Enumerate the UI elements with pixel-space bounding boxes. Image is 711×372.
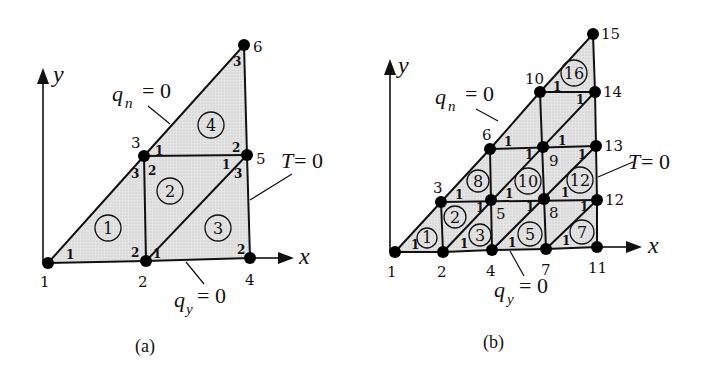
- bc-rhs: = 0: [519, 273, 548, 298]
- node-label: 10: [525, 70, 544, 88]
- local-number: 1: [460, 237, 468, 251]
- node-label: 9: [549, 152, 559, 170]
- bc-symbol: q: [494, 277, 505, 302]
- node-label: 11: [588, 259, 607, 277]
- local-number: 1: [504, 135, 512, 149]
- node-label: 6: [253, 38, 263, 56]
- bc-qn-b: q n = 0: [435, 81, 498, 121]
- node-label: 1: [387, 263, 397, 281]
- bc-subscript: y: [184, 301, 193, 317]
- element-label: 1: [422, 228, 432, 247]
- bc-subscript: n: [125, 95, 133, 111]
- local-number: 1: [561, 186, 569, 200]
- node-label: 3: [433, 179, 443, 197]
- bc-symbol: q: [112, 81, 123, 106]
- local-number: 3: [131, 167, 139, 181]
- node-label: 2: [138, 273, 148, 291]
- local-number: 1: [558, 134, 566, 148]
- node-label: 1: [40, 273, 50, 291]
- node-label: 15: [601, 25, 620, 43]
- bc-rhs: = 0: [142, 78, 171, 103]
- x-axis-label-a: x: [298, 243, 310, 269]
- element-label: 3: [213, 219, 223, 238]
- x-axis-label-b: x: [647, 232, 659, 258]
- caption-b: (b): [483, 332, 504, 353]
- element-label: 8: [473, 172, 483, 191]
- local-number: 1: [526, 200, 534, 214]
- local-number: 1: [580, 200, 588, 214]
- local-number: 2: [148, 164, 156, 178]
- local-number: 1: [505, 187, 513, 201]
- local-number: 3: [233, 55, 241, 69]
- y-axis-label-b: y: [396, 52, 409, 78]
- y-axis-b: y: [384, 52, 409, 252]
- element-label: 1: [103, 219, 113, 238]
- node-label: 6: [482, 126, 492, 144]
- local-number: 1: [562, 234, 570, 248]
- node-label: 13: [604, 137, 623, 155]
- bc-rhs: = 0: [197, 283, 226, 308]
- local-number: 1: [476, 201, 484, 215]
- node-label: 4: [245, 271, 255, 289]
- element-label: 2: [165, 182, 175, 201]
- x-axis-a: x: [250, 243, 310, 269]
- node-label: 8: [549, 204, 559, 222]
- local-number: 1: [222, 158, 230, 172]
- bc-subscript: n: [448, 98, 456, 114]
- local-number: 1: [411, 238, 419, 252]
- bc-subscript: y: [505, 291, 514, 307]
- local-number: 2: [237, 243, 245, 257]
- element-label: 5: [525, 225, 535, 244]
- node-label: 5: [256, 150, 266, 168]
- element-label: 10: [518, 172, 538, 191]
- element-label: 3: [475, 226, 485, 245]
- local-number: 3: [234, 167, 242, 181]
- bc-symbol: T: [628, 149, 642, 174]
- node-label: 14: [603, 83, 622, 101]
- bc-symbol: T: [281, 148, 295, 173]
- local-number: 1: [66, 248, 74, 262]
- finite-element-mesh-figure: y x 1 2 3 4 1 2 3 2 1: [0, 0, 711, 372]
- element-label: 16: [564, 64, 584, 83]
- element-label: 12: [570, 171, 590, 190]
- local-number: 1: [455, 188, 463, 202]
- bc-rhs: = 0: [465, 81, 494, 106]
- node-label: 3: [131, 134, 141, 152]
- element-label: 4: [206, 116, 216, 135]
- node-label: 12: [605, 191, 624, 209]
- local-number: 1: [155, 144, 163, 158]
- local-number: 1: [576, 93, 584, 107]
- local-number: 2: [131, 246, 139, 260]
- y-axis-label-a: y: [51, 61, 64, 87]
- bc-symbol: q: [435, 84, 446, 109]
- panel-b: y x 1 2 3: [384, 25, 670, 353]
- panel-a: y x 1 2 3 4 1 2 3 2 1: [37, 38, 323, 357]
- local-number: 2: [232, 141, 240, 155]
- local-number: 1: [578, 148, 586, 162]
- bc-rhs: = 0: [294, 148, 323, 173]
- node-label: 5: [496, 205, 506, 223]
- node-label: 2: [437, 263, 447, 281]
- local-number: 1: [553, 80, 561, 94]
- element-label: 7: [577, 223, 587, 242]
- bc-rhs: = 0: [641, 149, 670, 174]
- x-axis-b: x: [597, 232, 659, 258]
- bc-symbol: q: [174, 287, 185, 312]
- element-label: 2: [450, 208, 460, 227]
- bc-qy-a: q y = 0: [174, 262, 226, 317]
- local-number: 1: [508, 236, 516, 250]
- bc-qy-b: q y = 0: [494, 251, 548, 307]
- local-number: 1: [525, 148, 533, 162]
- local-number: 1: [153, 247, 161, 261]
- bc-qn-a: q n = 0: [112, 78, 171, 124]
- caption-a: (a): [135, 336, 155, 357]
- y-axis-a: y: [37, 61, 64, 263]
